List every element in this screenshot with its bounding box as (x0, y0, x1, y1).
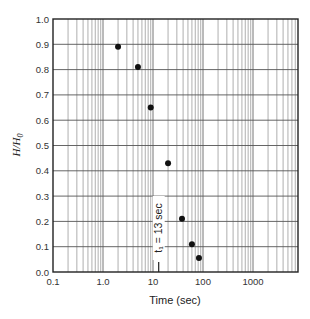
y-tick-label: 0.3 (36, 191, 49, 202)
x-tick-label: 1000 (242, 276, 263, 287)
grid-lines (53, 19, 298, 272)
y-tick-label: 0.5 (36, 140, 49, 151)
data-point (189, 241, 195, 247)
y-axis-title-subscript: 0 (16, 134, 25, 138)
y-axis-title-main: H/H (10, 136, 22, 157)
x-tick-label: 100 (195, 276, 211, 287)
x-tick-label: 1.0 (96, 276, 109, 287)
chart: 0.00.10.20.30.40.50.60.70.80.91.0 0.11.0… (0, 0, 310, 319)
y-tick-label: 0.1 (36, 241, 49, 252)
y-tick-label: 1.0 (36, 14, 49, 25)
x-tick-label: 0.1 (46, 276, 59, 287)
y-tick-label: 0.8 (36, 64, 49, 75)
x-axis-title: Time (sec) (149, 294, 201, 306)
data-point (148, 105, 154, 111)
data-point (135, 64, 141, 70)
x-tick-label: 10 (148, 276, 159, 287)
y-tick-label: 0.7 (36, 89, 49, 100)
y-tick-label: 0.6 (36, 115, 49, 126)
data-point (179, 216, 185, 222)
data-point (165, 160, 171, 166)
data-point (115, 44, 121, 50)
t1-annotation: t₁ = 13 sec (152, 196, 165, 272)
y-axis-ticks: 0.00.10.20.30.40.50.60.70.80.91.0 (36, 14, 49, 278)
y-tick-label: 0.9 (36, 39, 49, 50)
x-axis-ticks: 0.11.0101001000 (46, 276, 263, 287)
annotation-text: t₁ = 13 sec (152, 203, 164, 252)
y-tick-label: 0.4 (36, 165, 49, 176)
y-axis-title: H/H0 (10, 134, 25, 158)
svg-text:H/H0: H/H0 (10, 134, 25, 158)
y-tick-label: 0.2 (36, 216, 49, 227)
data-point (196, 255, 202, 261)
